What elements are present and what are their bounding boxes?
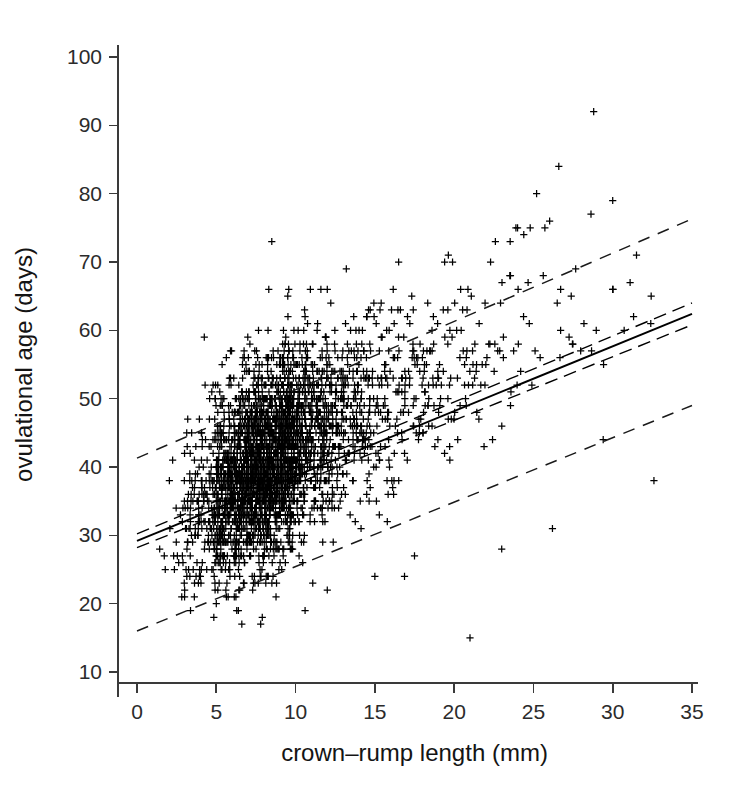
y-tick-label: 50 [79, 387, 102, 410]
y-tick-label: 60 [79, 318, 102, 341]
y-tick-label: 40 [79, 455, 102, 478]
x-tick-label: 0 [131, 700, 143, 723]
y-tick-label: 20 [79, 592, 102, 615]
y-tick-label: 30 [79, 523, 102, 546]
x-tick-label: 20 [442, 700, 465, 723]
x-tick-label: 5 [210, 700, 222, 723]
figure-root: 10203040506070809010005101520253035 crow… [0, 0, 739, 790]
x-tick-label: 15 [363, 700, 386, 723]
x-tick-label: 25 [522, 700, 545, 723]
scatter-plot: 10203040506070809010005101520253035 crow… [0, 0, 739, 790]
y-tick-label: 70 [79, 250, 102, 273]
x-tick-label: 35 [680, 700, 703, 723]
y-tick-label: 90 [79, 113, 102, 136]
y-tick-label: 80 [79, 182, 102, 205]
y-tick-label: 10 [79, 660, 102, 683]
y-axis-title: ovulational age (days) [10, 247, 37, 482]
y-tick-label: 100 [67, 45, 102, 68]
x-axis-title: crown–rump length (mm) [281, 739, 548, 766]
x-tick-label: 30 [601, 700, 624, 723]
x-tick-label: 10 [284, 700, 307, 723]
